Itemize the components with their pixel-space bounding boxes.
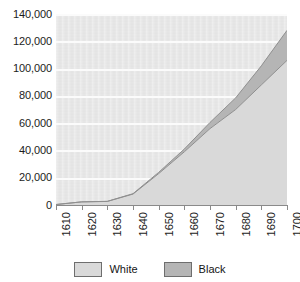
population-area-chart: 020,00040,00060,00080,000100,000120,0001… [0,0,300,282]
plot-area [56,14,287,205]
x-axis-tick-label: 1620 [87,212,98,236]
series-layer [56,14,287,205]
x-axis-tick-label: 1700 [292,212,300,236]
x-axis-tick-label: 1630 [112,212,123,236]
x-axis-tick-label: 1690 [266,212,277,236]
x-axis-tick-label: 1640 [138,212,149,236]
x-axis-tick-label: 1660 [189,212,200,236]
legend-item-black[interactable]: Black [164,262,226,277]
chart-legend: WhiteBlack [0,258,300,280]
x-axis-line [56,205,288,206]
x-axis-tick-label: 1650 [164,212,175,236]
x-axis-tick-label: 1610 [61,212,72,236]
legend-label: Black [199,264,226,275]
legend-item-white[interactable]: White [74,262,137,277]
legend-swatch [74,262,102,277]
legend-swatch [164,262,192,277]
x-axis-tick-label: 1680 [241,212,252,236]
legend-label: White [109,264,137,275]
x-axis-tick-label: 1670 [215,212,226,236]
